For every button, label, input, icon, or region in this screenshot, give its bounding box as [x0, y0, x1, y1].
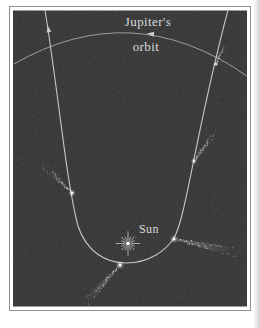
jupiter-orbit-label-line1: Jupiter's [125, 14, 171, 29]
comet-orbit-diagram: Jupiter's orbit Sun [0, 0, 260, 328]
sun-label: Sun [139, 222, 159, 236]
sun-core [126, 242, 130, 246]
book-page: { "figure": { "labels": { "jupiter_line1… [0, 0, 260, 328]
jupiter-orbit-label-line2: orbit [133, 39, 160, 54]
diagram-scene: Jupiter's orbit Sun [13, 10, 247, 311]
